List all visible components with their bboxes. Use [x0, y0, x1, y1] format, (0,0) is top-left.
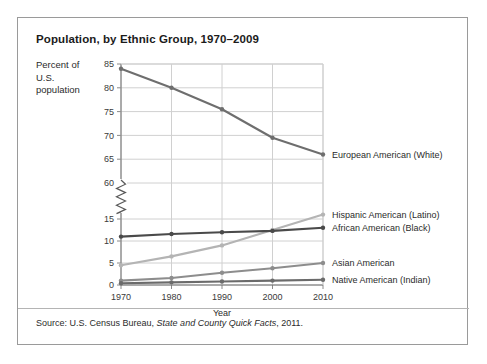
series-point — [220, 279, 224, 283]
source-work: State and County Quick Facts — [157, 318, 277, 328]
line-chart-svg: 60657075808505101519701980199020002010Ye… — [18, 18, 469, 346]
series-point — [119, 67, 123, 71]
y-axis-tick-label: 70 — [104, 131, 114, 141]
y-axis-tick-label: 5 — [109, 258, 114, 268]
y-axis-tick-label: 85 — [104, 59, 114, 69]
series-point — [270, 278, 274, 282]
footer-divider — [18, 308, 469, 309]
source-prefix: Source: — [36, 318, 67, 328]
series-point — [220, 107, 224, 111]
chart-plot-area: 60657075808505101519701980199020002010Ye… — [18, 18, 469, 346]
series-point — [321, 226, 325, 230]
y-axis-tick-label: 0 — [109, 280, 114, 290]
series-point — [220, 270, 224, 274]
series-point — [270, 229, 274, 233]
series-point — [169, 232, 173, 236]
y-axis-tick-label: 65 — [104, 154, 114, 164]
y-axis-tick-label: 60 — [104, 178, 114, 188]
series-label: Hispanic American (Latino) — [332, 210, 440, 220]
series-label: European American (White) — [332, 150, 443, 160]
y-axis-tick-label: 10 — [104, 236, 114, 246]
series-label: African American (Black) — [332, 223, 431, 233]
y-axis-tick-label: 80 — [104, 83, 114, 93]
series-point — [270, 266, 274, 270]
source-year: , 2011. — [276, 318, 303, 328]
series-point — [119, 234, 123, 238]
series-point — [321, 278, 325, 282]
x-axis-tick-label: 2000 — [262, 292, 282, 302]
series-point — [169, 86, 173, 90]
series-label: Native American (Indian) — [332, 275, 431, 285]
y-axis-tick-label: 75 — [104, 107, 114, 117]
series-point — [321, 152, 325, 156]
series-point — [270, 136, 274, 140]
x-axis-tick-label: 2010 — [313, 292, 333, 302]
series-point — [220, 230, 224, 234]
series-point — [220, 243, 224, 247]
series-point — [321, 261, 325, 265]
series-point — [169, 254, 173, 258]
source-publisher: U.S. Census Bureau, — [70, 318, 155, 328]
series-point — [321, 212, 325, 216]
x-axis-label: Year — [213, 308, 231, 318]
x-axis-tick-label: 1970 — [111, 292, 131, 302]
series-point — [119, 263, 123, 267]
series-point — [169, 276, 173, 280]
series-point — [119, 281, 123, 285]
x-axis-tick-label: 1980 — [161, 292, 181, 302]
chart-card: Population, by Ethnic Group, 1970–2009 P… — [17, 17, 468, 345]
series-label: Asian American — [332, 258, 395, 268]
series-point — [169, 280, 173, 284]
source-note: Source: U.S. Census Bureau, State and Co… — [36, 318, 303, 328]
x-axis-tick-label: 1990 — [212, 292, 232, 302]
y-axis-tick-label: 15 — [104, 214, 114, 224]
